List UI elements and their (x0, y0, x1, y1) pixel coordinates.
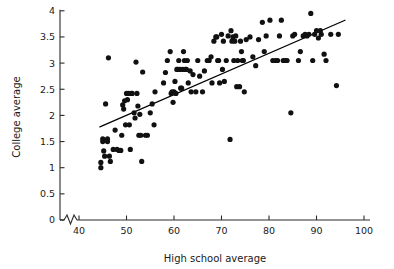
data-point (113, 127, 118, 132)
data-point (132, 115, 137, 120)
data-point (193, 89, 198, 94)
y-tick-label-1: 1 (49, 162, 55, 173)
data-point (200, 89, 205, 94)
data-point (235, 58, 240, 63)
data-point (237, 84, 242, 89)
data-point (238, 39, 243, 44)
y-tick-label-1-5: 1.5 (40, 136, 55, 147)
data-point (250, 54, 255, 59)
data-point (119, 133, 124, 138)
data-point (334, 83, 339, 88)
scatter-plot-figure: 405060708090100 00.511.522.533.54 High s… (0, 0, 394, 269)
data-point (121, 107, 126, 112)
data-point (233, 33, 238, 38)
data-point (296, 58, 301, 63)
data-point (163, 70, 168, 75)
data-point (118, 148, 123, 153)
data-point (228, 28, 233, 33)
data-point (98, 160, 103, 165)
data-point (138, 133, 143, 138)
data-point (108, 159, 113, 164)
y-axis-title: College average (11, 76, 22, 157)
data-point (132, 110, 137, 115)
data-point (128, 147, 133, 152)
data-point (140, 69, 145, 74)
data-point (100, 139, 105, 144)
data-point (152, 89, 157, 94)
data-point (256, 37, 261, 42)
data-point (284, 58, 289, 63)
data-point (322, 52, 327, 57)
plot-canvas: 405060708090100 00.511.522.533.54 High s… (0, 0, 394, 269)
data-point (242, 89, 247, 94)
data-point (214, 34, 219, 39)
x-tick-label-50: 50 (120, 225, 132, 236)
data-points-group (98, 11, 341, 170)
data-point (336, 32, 341, 37)
data-point (145, 133, 150, 138)
data-point (310, 58, 315, 63)
data-point (220, 67, 225, 72)
data-point (208, 54, 213, 59)
data-point (306, 32, 311, 37)
data-point (308, 11, 313, 16)
data-point (222, 79, 227, 84)
data-point (209, 80, 214, 85)
data-point (148, 110, 153, 115)
y-tick-label-0: 0 (49, 214, 55, 225)
data-point (170, 100, 175, 105)
data-point (130, 91, 135, 96)
data-point (176, 58, 181, 63)
data-point (137, 112, 142, 117)
data-point (151, 122, 156, 127)
data-point (217, 80, 222, 85)
data-point (106, 55, 111, 60)
x-tick-label-100: 100 (355, 225, 373, 236)
data-point (202, 68, 207, 73)
y-tick-label-2: 2 (49, 110, 55, 121)
data-point (277, 33, 282, 38)
data-point (264, 33, 269, 38)
data-point (127, 122, 132, 127)
data-point (139, 159, 144, 164)
data-point (101, 148, 106, 153)
data-point (260, 20, 265, 25)
y-tick-label-2-5: 2.5 (40, 84, 55, 95)
data-point (275, 58, 280, 63)
data-point (125, 97, 130, 102)
data-point (98, 165, 103, 170)
x-axis-break-zigzag (64, 215, 77, 224)
data-point (181, 49, 186, 54)
data-point (221, 39, 226, 44)
data-point (219, 32, 224, 37)
data-point (288, 110, 293, 115)
data-point (195, 58, 200, 63)
x-tick-label-90: 90 (310, 225, 322, 236)
data-point (279, 18, 284, 23)
x-tick-label-60: 60 (168, 225, 180, 236)
data-point (135, 103, 140, 108)
data-point (134, 91, 139, 96)
data-point (232, 39, 237, 44)
data-point (172, 79, 177, 84)
data-point (185, 58, 190, 63)
data-point (173, 91, 178, 96)
data-point (186, 80, 191, 85)
data-point (267, 18, 272, 23)
x-tick-label-80: 80 (263, 225, 275, 236)
x-tick-label-70: 70 (215, 225, 227, 236)
data-point (241, 58, 246, 63)
data-point (323, 58, 328, 63)
data-point (319, 32, 324, 37)
data-point (165, 58, 170, 63)
data-point (133, 59, 138, 64)
y-tick-label-3-5: 3.5 (40, 31, 55, 42)
data-point (179, 86, 184, 91)
y-tick-label-0-5: 0.5 (40, 188, 55, 199)
data-point (224, 58, 229, 63)
data-point (227, 137, 232, 142)
data-point (262, 49, 267, 54)
data-point (328, 32, 333, 37)
data-point (190, 72, 195, 77)
data-point (102, 154, 107, 159)
